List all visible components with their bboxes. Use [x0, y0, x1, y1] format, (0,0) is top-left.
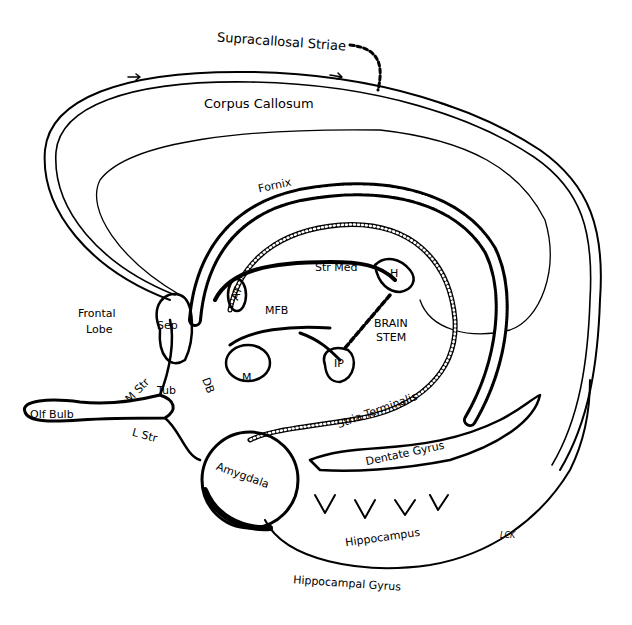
dentate-gyrus-shape [310, 395, 540, 471]
label-m: M [242, 372, 252, 383]
label-ip: IP [334, 358, 344, 369]
label-lobe: Lobe [86, 324, 112, 335]
mfb-path [230, 327, 330, 345]
label-sep: Sep [157, 320, 178, 331]
label-h: H [390, 268, 398, 279]
label-tub: Tub [157, 385, 176, 396]
label-stem: STEM [376, 332, 406, 343]
label-olf-bulb: Olf Bulb [30, 409, 74, 420]
label-mfb: MFB [265, 305, 288, 316]
label-brain: BRAIN [374, 318, 408, 329]
label-signature: LCK [500, 532, 515, 540]
label-frontal: Frontal [78, 308, 116, 319]
label-corpus-callosum: Corpus Callosum [204, 97, 314, 110]
label-str-med: Str Med [315, 262, 358, 273]
hippocampus-shape [265, 380, 590, 568]
